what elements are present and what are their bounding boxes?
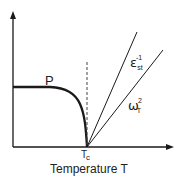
- omega-label: ω2T: [128, 97, 147, 113]
- x-axis-arrow-icon: [166, 144, 174, 150]
- omega-superscript: 2: [138, 97, 142, 104]
- x-axis-label: Temperature T: [50, 163, 128, 175]
- omega-subscript: T: [137, 107, 141, 114]
- epsilon-label: ε-1st: [130, 54, 149, 70]
- tc-subscript: c: [86, 153, 90, 162]
- epsilon-subscript: st: [137, 64, 142, 71]
- p-label: P: [45, 74, 54, 87]
- epsilon-superscript: -1: [136, 54, 142, 61]
- tc-label: Tc: [81, 150, 91, 160]
- inverse-permittivity-line: [87, 32, 137, 147]
- y-axis-arrow-icon: [10, 11, 16, 19]
- polarization-curve: [13, 87, 87, 147]
- soft-mode-line: [87, 50, 163, 147]
